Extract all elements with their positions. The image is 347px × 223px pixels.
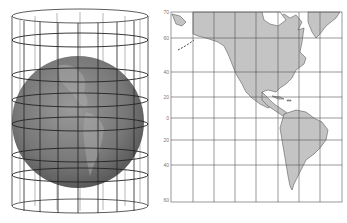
lat-label-40s: 40 (155, 163, 169, 168)
lat-label-0: 0 (155, 116, 169, 121)
cylinder-illustration (12, 9, 148, 213)
land-masses (193, 12, 340, 190)
figure: 70 60 40 20 0 20 40 60 (0, 0, 347, 223)
lat-label-20n: 20 (155, 95, 169, 100)
figure-svg (0, 0, 347, 223)
alaska-west-tip (172, 14, 186, 26)
mercator-map (171, 12, 342, 202)
lat-label-70n: 70 (155, 10, 169, 15)
lat-label-60s: 60 (155, 198, 169, 203)
north-america (193, 12, 306, 108)
lat-label-20s: 20 (155, 138, 169, 143)
south-america (280, 110, 328, 190)
lat-label-40n: 40 (155, 70, 169, 75)
aleutian-islands (178, 40, 194, 50)
greenland (308, 12, 340, 38)
lat-label-60n: 60 (155, 36, 169, 41)
